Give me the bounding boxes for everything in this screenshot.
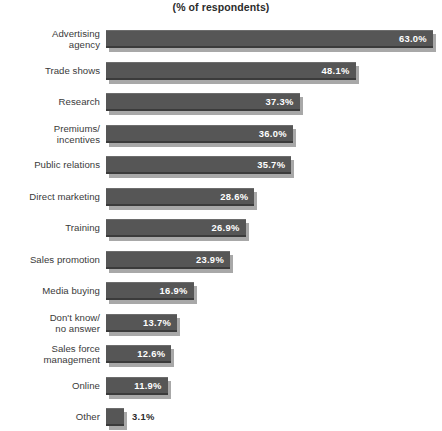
category-label: Sales promotion	[0, 254, 100, 265]
category-label: Media buying	[0, 285, 100, 296]
bar-value-label: 36.0%	[259, 128, 287, 139]
bar: 48.1%	[106, 62, 356, 83]
bar-fill	[106, 408, 124, 426]
bar-row: Other3.1%	[0, 407, 442, 431]
bar: 13.7%	[106, 314, 177, 335]
bar-fill	[106, 62, 356, 80]
bar-chart: (% of respondents) Advertisingagency63.0…	[0, 0, 442, 431]
category-label: Research	[0, 96, 100, 107]
category-label: Public relations	[0, 159, 100, 170]
bar-row: Advertisingagency63.0%	[0, 29, 442, 60]
bar: 16.9%	[106, 282, 194, 303]
bar: 36.0%	[106, 125, 293, 146]
category-label: Advertisingagency	[0, 28, 100, 51]
bar-row: Don't know/no answer13.7%	[0, 313, 442, 344]
bar-value-label: 26.9%	[212, 222, 240, 233]
category-label: Direct marketing	[0, 191, 100, 202]
bar-row: Sales promotion23.9%	[0, 250, 442, 281]
bar-value-label: 12.6%	[137, 348, 165, 359]
category-label: Trade shows	[0, 65, 100, 76]
bar-value-label: 35.7%	[257, 159, 285, 170]
category-label: Don't know/no answer	[0, 312, 100, 335]
bar: 23.9%	[106, 251, 230, 272]
bar-value-label: 13.7%	[143, 317, 171, 328]
bar-row: Research37.3%	[0, 92, 442, 123]
plot-area: Advertisingagency63.0%Trade shows48.1%Re…	[0, 0, 442, 431]
bar-fill	[106, 30, 433, 48]
bar: 11.9%	[106, 377, 168, 398]
bar-value-label: 16.9%	[160, 285, 188, 296]
bar-row: Sales forcemanagement12.6%	[0, 344, 442, 375]
bar-value-label: 37.3%	[265, 96, 293, 107]
category-label: Training	[0, 222, 100, 233]
bar: 35.7%	[106, 156, 291, 177]
bar-value-label: 23.9%	[196, 254, 224, 265]
bar: 63.0%	[106, 30, 433, 51]
bar-value-label: 11.9%	[134, 380, 162, 391]
bar: 26.9%	[106, 219, 246, 240]
category-label: Online	[0, 380, 100, 391]
bar-row: Trade shows48.1%	[0, 61, 442, 92]
bar	[106, 408, 124, 429]
bar: 12.6%	[106, 345, 171, 366]
bar-row: Direct marketing28.6%	[0, 187, 442, 218]
category-label: Premiums/incentives	[0, 123, 100, 146]
bar-value-label: 3.1%	[132, 411, 155, 422]
bar-row: Online11.9%	[0, 376, 442, 407]
category-label: Other	[0, 411, 100, 422]
bar-value-label: 63.0%	[399, 33, 427, 44]
bar-row: Public relations35.7%	[0, 155, 442, 186]
bar-value-label: 28.6%	[220, 191, 248, 202]
bar-row: Premiums/incentives36.0%	[0, 124, 442, 155]
bar-row: Training26.9%	[0, 218, 442, 249]
bar: 28.6%	[106, 188, 254, 209]
bar-row: Media buying16.9%	[0, 281, 442, 312]
category-label: Sales forcemanagement	[0, 343, 100, 366]
bar: 37.3%	[106, 93, 300, 114]
bar-value-label: 48.1%	[322, 65, 350, 76]
